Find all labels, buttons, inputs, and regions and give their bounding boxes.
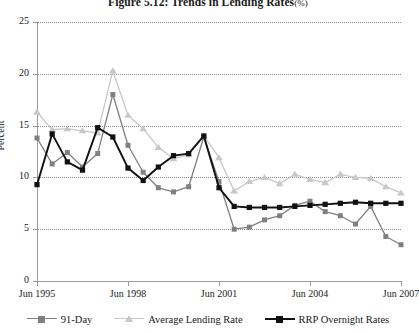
x-tick-mark — [128, 281, 129, 286]
data-point — [216, 185, 221, 190]
x-tick-label: Jun 2001 — [201, 288, 237, 299]
data-point — [186, 184, 191, 189]
legend-item-91-day[interactable]: 91-Day — [27, 314, 93, 325]
figure-title: Figure 5.12: Trends in Lending Rates(%) — [0, 0, 416, 9]
data-point — [50, 131, 55, 136]
x-tick-label: Jun 2007 — [383, 288, 419, 299]
series-line — [37, 128, 401, 208]
y-tick-label: 20 — [3, 67, 29, 78]
data-point — [292, 204, 297, 209]
data-point — [141, 178, 146, 183]
data-point — [247, 225, 252, 230]
data-point — [34, 182, 39, 187]
data-point — [323, 202, 328, 207]
data-point — [383, 234, 388, 239]
legend-swatch-icon — [114, 314, 144, 324]
y-tick-label: 15 — [3, 119, 29, 130]
data-point — [156, 164, 161, 169]
legend-label: RRP Overnight Rates — [299, 314, 390, 325]
x-tick-mark — [401, 281, 402, 286]
data-point — [50, 161, 55, 166]
x-tick-label: Jun 1995 — [19, 288, 55, 299]
data-point — [232, 227, 237, 232]
data-point — [336, 171, 344, 177]
data-point — [338, 213, 343, 218]
data-point — [125, 165, 130, 170]
data-point — [323, 209, 328, 214]
data-point — [171, 153, 176, 158]
data-point — [230, 187, 238, 193]
series-rrp-overnight-rates — [34, 125, 403, 210]
data-point — [353, 200, 358, 205]
x-tick-mark — [310, 281, 311, 286]
legend-label: Average Lending Rate — [148, 314, 242, 325]
x-tick-label: Jun 2004 — [292, 288, 328, 299]
x-tick-mark — [219, 281, 220, 286]
data-point — [110, 134, 115, 139]
data-point — [95, 151, 100, 156]
data-point — [156, 185, 161, 190]
x-tick-label: Jun 1998 — [110, 288, 146, 299]
y-axis-label: Percent — [0, 106, 6, 166]
x-tick-mark — [37, 281, 38, 286]
legend-label: 91-Day — [61, 314, 93, 325]
legend-item-average-lending-rate[interactable]: Average Lending Rate — [114, 314, 242, 325]
y-tick-label: 5 — [3, 222, 29, 233]
data-point — [277, 205, 282, 210]
series-average-lending-rate — [33, 67, 405, 195]
figure-title-text: Figure 5.12: Trends in Lending Rates — [108, 0, 294, 8]
data-point — [110, 92, 115, 97]
data-point — [124, 112, 132, 118]
data-point — [383, 201, 388, 206]
data-point — [80, 168, 85, 173]
data-point — [201, 133, 206, 138]
data-point — [186, 151, 191, 156]
data-point — [95, 125, 100, 130]
data-point — [368, 201, 373, 206]
y-tick-label: 25 — [3, 15, 29, 26]
legend-item-rrp-overnight-rates[interactable]: RRP Overnight Rates — [265, 314, 390, 325]
legend-swatch-icon — [27, 314, 57, 324]
data-point — [399, 242, 404, 247]
data-point — [126, 143, 131, 148]
data-point — [35, 136, 40, 141]
data-point — [141, 170, 146, 175]
data-point — [291, 171, 299, 177]
data-point — [109, 67, 117, 73]
data-point — [338, 201, 343, 206]
data-point — [65, 159, 70, 164]
data-point — [171, 189, 176, 194]
series-layer — [37, 22, 401, 281]
data-point — [382, 183, 390, 189]
data-point — [307, 203, 312, 208]
data-point — [65, 150, 70, 155]
y-tick-label: 10 — [3, 170, 29, 181]
data-point — [262, 217, 267, 222]
series-91-day — [35, 92, 404, 247]
data-point — [277, 213, 282, 218]
data-point — [33, 109, 41, 115]
data-point — [232, 204, 237, 209]
chart-legend: 91-DayAverage Lending RateRRP Overnight … — [0, 309, 416, 329]
figure-title-unit: (%) — [294, 0, 308, 8]
data-point — [247, 205, 252, 210]
series-line — [37, 95, 401, 245]
data-point — [398, 201, 403, 206]
data-point — [63, 125, 71, 131]
plot-area — [37, 22, 401, 281]
series-line — [37, 71, 401, 193]
y-tick-label: 0 — [3, 274, 29, 285]
legend-swatch-icon — [265, 314, 295, 324]
data-point — [261, 174, 269, 180]
data-point — [215, 154, 223, 160]
data-point — [262, 205, 267, 210]
data-point — [353, 222, 358, 227]
